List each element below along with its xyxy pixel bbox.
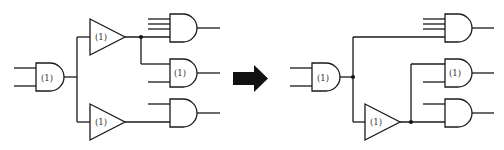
right-top-and-gate bbox=[423, 14, 494, 42]
gate-label: (1) bbox=[449, 68, 461, 78]
right-middle-and-gate: (1) bbox=[423, 59, 494, 87]
left-top-buffer: (1) bbox=[90, 19, 125, 55]
gate-label: (1) bbox=[41, 73, 53, 83]
left-middle-and-gate: (1) bbox=[148, 59, 220, 87]
gate-label: (1) bbox=[317, 73, 329, 83]
circuit-diagram: (1) (1) (1) bbox=[0, 0, 504, 150]
buffer-label: (1) bbox=[370, 117, 382, 127]
left-input-and-gate: (1) bbox=[14, 63, 77, 91]
left-bottom-buffer: (1) bbox=[90, 104, 125, 140]
right-buffer: (1) bbox=[365, 104, 400, 140]
left-circuit: (1) (1) (1) bbox=[14, 14, 220, 140]
buffer-label: (1) bbox=[95, 117, 107, 127]
left-bottom-and-gate bbox=[148, 99, 220, 127]
right-bottom-and-gate bbox=[423, 99, 494, 127]
transform-arrow-icon bbox=[233, 65, 268, 92]
buffer-label: (1) bbox=[95, 32, 107, 42]
right-input-and-gate: (1) bbox=[290, 63, 353, 91]
right-circuit: (1) (1) (1) bbox=[290, 14, 494, 140]
left-top-and-gate bbox=[148, 14, 220, 42]
gate-label: (1) bbox=[174, 68, 186, 78]
